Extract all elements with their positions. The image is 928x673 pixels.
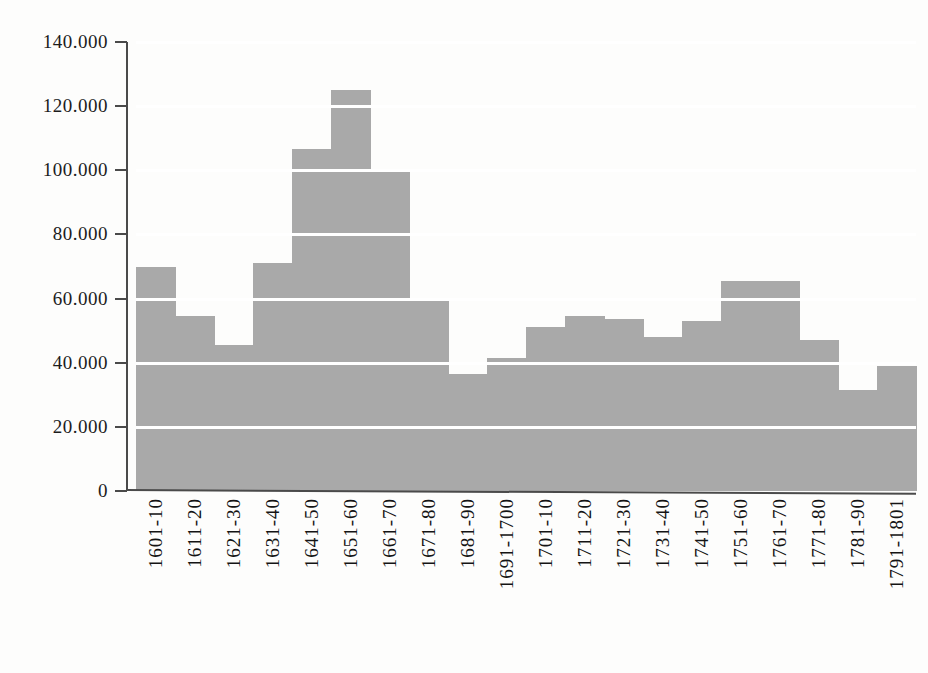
y-axis-line (126, 42, 128, 491)
x-axis-tick-label: 1761-70 (760, 498, 800, 668)
bar-slot (214, 42, 254, 491)
x-axis-tick-label: 1651-60 (331, 498, 371, 668)
y-axis-tick-label: 0 (0, 480, 108, 502)
x-axis-tick-label-text: 1791-1801 (886, 498, 908, 589)
x-axis-tick-label: 1731-40 (643, 498, 683, 668)
y-axis-tick-label-text: 20.000 (0, 416, 108, 438)
x-axis-tick-label-text: 1741-50 (691, 498, 713, 568)
bar[interactable] (370, 170, 410, 491)
bar[interactable] (721, 281, 761, 491)
x-axis-tick-label-text: 1721-30 (613, 498, 635, 568)
bar-slot (448, 42, 488, 491)
bar-slot (136, 42, 176, 491)
x-axis-tick-label: 1791-1801 (877, 498, 917, 668)
y-axis-tick-label-text: 140.000 (0, 31, 108, 53)
bar-slot (604, 42, 644, 491)
y-axis-tick-label: 60.000 (0, 288, 108, 310)
gridline (136, 41, 916, 44)
y-axis-tick-label-text: 100.000 (0, 159, 108, 181)
bar[interactable] (760, 281, 800, 491)
bar[interactable] (331, 90, 371, 491)
plot-area (136, 42, 916, 491)
bar[interactable] (838, 390, 878, 491)
y-axis-tick-label: 120.000 (0, 95, 108, 117)
bar-slot (760, 42, 800, 491)
x-axis-tick-label-text: 1711-20 (574, 498, 596, 568)
x-axis-tick-label-text: 1631-40 (262, 498, 284, 568)
x-axis-tick-label: 1601-10 (136, 498, 176, 668)
bar-slot (175, 42, 215, 491)
x-axis-tick-label-text: 1601-10 (145, 498, 167, 568)
x-axis-tick-label-text: 1761-70 (769, 498, 791, 568)
gridline (136, 426, 916, 429)
x-axis-tick-label: 1741-50 (682, 498, 722, 668)
x-axis-tick-label-text: 1671-80 (418, 498, 440, 568)
y-axis-tick-label: 20.000 (0, 416, 108, 438)
bar[interactable] (214, 345, 254, 491)
x-axis-tick-label: 1711-20 (565, 498, 605, 668)
y-axis-tick (115, 41, 127, 43)
y-axis-tick-label-text: 80.000 (0, 223, 108, 245)
y-axis-tick (115, 233, 127, 235)
x-axis-tick-label: 1721-30 (604, 498, 644, 668)
x-axis-tick-label-text: 1771-80 (808, 498, 830, 568)
bar-slot (292, 42, 332, 491)
x-axis-tick-label: 1781-90 (838, 498, 878, 668)
x-axis-tick-label: 1681-90 (448, 498, 488, 668)
bar-slot (487, 42, 527, 491)
gridline (136, 169, 916, 172)
y-axis-tick (115, 105, 127, 107)
gridline (136, 233, 916, 236)
y-axis-tick-label-text: 60.000 (0, 288, 108, 310)
y-axis-tick-label: 100.000 (0, 159, 108, 181)
x-axis-tick-label-text: 1681-90 (457, 498, 479, 568)
x-axis-tick-label: 1771-80 (799, 498, 839, 668)
bar-slot (409, 42, 449, 491)
y-axis-tick-label: 40.000 (0, 352, 108, 374)
y-axis-tick-label-text: 0 (0, 480, 108, 502)
bar-slot (682, 42, 722, 491)
bar-slot (253, 42, 293, 491)
x-axis-tick-label: 1751-60 (721, 498, 761, 668)
x-axis-tick-label: 1671-80 (409, 498, 449, 668)
x-axis-tick-label-text: 1701-10 (535, 498, 557, 568)
x-axis-tick-label-text: 1621-30 (223, 498, 245, 568)
bar[interactable] (643, 337, 683, 491)
bar[interactable] (487, 358, 527, 491)
bar[interactable] (175, 316, 215, 491)
bar[interactable] (565, 316, 605, 491)
y-axis-tick-label: 80.000 (0, 223, 108, 245)
x-axis-tick-label-text: 1611-20 (184, 498, 206, 568)
y-axis-tick-label: 140.000 (0, 31, 108, 53)
x-axis-tick-label-text: 1781-90 (847, 498, 869, 568)
x-axis-tick-label: 1661-70 (370, 498, 410, 668)
bar-slot (838, 42, 878, 491)
x-axis-tick-label-text: 1731-40 (652, 498, 674, 568)
bar-slot (799, 42, 839, 491)
x-axis-tick-label-text: 1641-50 (301, 498, 323, 568)
y-axis-tick-label-text: 40.000 (0, 352, 108, 374)
y-axis-tick-label-text: 120.000 (0, 95, 108, 117)
x-axis-tick-label: 1631-40 (253, 498, 293, 668)
bar-slot (526, 42, 566, 491)
x-axis-tick-label: 1621-30 (214, 498, 254, 668)
bar[interactable] (604, 319, 644, 491)
bar-slot (877, 42, 917, 491)
bar[interactable] (409, 300, 449, 491)
bar-slot (565, 42, 605, 491)
x-axis-tick-label-text: 1661-70 (379, 498, 401, 568)
gridline (136, 362, 916, 365)
bar-slot (721, 42, 761, 491)
x-axis-tick-label: 1641-50 (292, 498, 332, 668)
y-axis-tick (115, 362, 127, 364)
bar-slot (643, 42, 683, 491)
bar[interactable] (526, 327, 566, 491)
bar[interactable] (292, 149, 332, 491)
x-axis-tick-label: 1611-20 (175, 498, 215, 668)
x-axis-tick-label: 1701-10 (526, 498, 566, 668)
y-axis-tick (115, 298, 127, 300)
x-axis-tick-label-text: 1651-60 (340, 498, 362, 568)
bar[interactable] (682, 321, 722, 491)
bar[interactable] (448, 374, 488, 491)
bar-chart: 020.00040.00060.00080.000100.000120.0001… (0, 0, 928, 673)
